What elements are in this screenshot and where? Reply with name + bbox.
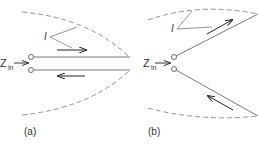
- field-line-top: [148, 9, 258, 20]
- current-label-leader: [50, 27, 77, 48]
- zin-subscript: in: [151, 64, 157, 71]
- terminal-bottom: [29, 68, 34, 73]
- panel-b: I Z in (b): [143, 9, 258, 137]
- field-line-top: [22, 12, 130, 58]
- zin-subscript: in: [8, 64, 14, 71]
- panel-a: I Z in (a): [0, 12, 130, 137]
- wire-top: [176, 14, 258, 56]
- wire-bottom: [176, 70, 258, 116]
- caption-a: (a): [24, 126, 36, 137]
- current-arrow-return: [208, 96, 233, 110]
- field-line-bottom: [148, 108, 258, 118]
- terminal-top: [172, 55, 177, 60]
- current-label: I: [44, 31, 47, 42]
- zin-label: Z: [143, 57, 150, 69]
- zin-label: Z: [0, 57, 7, 69]
- field-line-bottom: [22, 70, 130, 115]
- terminal-top: [29, 55, 34, 60]
- current-label-leader: [177, 11, 212, 29]
- current-label: I: [171, 23, 174, 34]
- caption-b: (b): [148, 126, 160, 137]
- diagram: I Z in (a) I Z in (b): [0, 0, 258, 155]
- transmission-line-diagram: I Z in (a) I Z in (b): [0, 0, 258, 155]
- terminal-bottom: [172, 67, 177, 72]
